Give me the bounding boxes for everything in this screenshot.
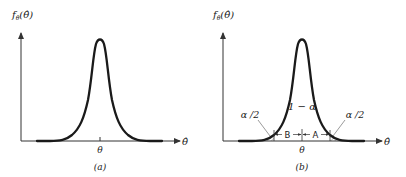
figure-canvas: fθ̂(θ̂) θ̂ θ (a) B A fθ̂(θ̂) <box>0 0 406 177</box>
panel-b: B A fθ̂(θ̂) θ̂ θ 1 − α α /2 α /2 (b) <box>212 9 390 172</box>
y-axis-label: fθ̂(θ̂) <box>11 9 33 21</box>
interval-b-label: B <box>285 130 291 140</box>
panel-caption: (a) <box>94 162 107 172</box>
pdf-curve <box>37 40 162 142</box>
interval-a-label: A <box>313 130 319 140</box>
y-axis-label: fθ̂(θ̂) <box>212 9 234 21</box>
right-tail-label: α /2 <box>346 109 365 120</box>
pdf-curve <box>239 40 364 142</box>
center-tick-label: θ <box>299 145 305 155</box>
right-tail-leader <box>333 120 345 136</box>
center-tick-label: θ <box>97 145 103 155</box>
panel-caption: (b) <box>296 162 309 172</box>
x-axis-label: θ̂ <box>384 136 390 147</box>
x-axis-label: θ̂ <box>182 136 188 147</box>
left-tail-leader <box>258 120 270 136</box>
panel-a: fθ̂(θ̂) θ̂ θ (a) <box>11 9 188 172</box>
left-tail-label: α /2 <box>241 109 260 120</box>
center-area-label: 1 − α <box>288 101 316 112</box>
